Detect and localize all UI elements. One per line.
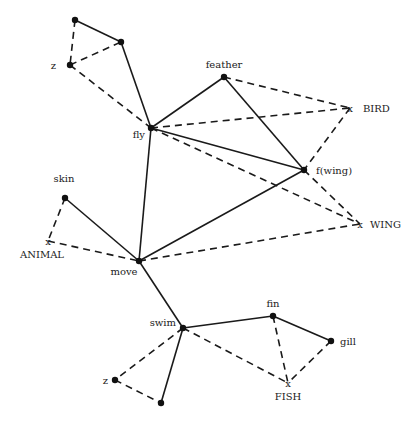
node-z_bottom: z (103, 375, 118, 386)
edge-gill-fish (288, 341, 331, 383)
node-dot-icon (67, 62, 73, 68)
edge-feather-bird (224, 77, 350, 108)
edge-fwing-wing (304, 170, 360, 224)
node-label: z (51, 60, 56, 71)
node-wing: xWING (357, 219, 401, 230)
edge-n_top-z_top (70, 20, 75, 65)
nodes-layer: zflyfeatherxBIRDf(wing)xWINGskinxANIMALm… (19, 17, 401, 406)
semantic-network-diagram: zflyfeatherxBIRDf(wing)xWINGskinxANIMALm… (0, 0, 414, 424)
edge-n_top-n_midtop (75, 20, 121, 42)
node-x-marker-icon: x (45, 236, 51, 247)
node-label: WING (370, 219, 401, 230)
node-label: gill (340, 336, 356, 347)
node-dot-icon (328, 338, 334, 344)
node-dot-icon (158, 400, 164, 406)
node-dot-icon (62, 195, 68, 201)
node-x-marker-icon: x (285, 378, 291, 389)
node-n_midtop (118, 39, 124, 45)
node-animal: xANIMAL (19, 236, 64, 260)
edge-swim-fin (183, 316, 273, 328)
edge-swim-z_bottom (115, 328, 183, 380)
node-label: fin (266, 298, 280, 309)
node-label: FISH (275, 391, 302, 402)
edge-skin-animal (48, 198, 65, 241)
node-n_top (72, 17, 78, 23)
edge-n_midtop-fly (121, 42, 151, 128)
node-label: BIRD (363, 103, 390, 114)
edge-feather-fwing (224, 77, 304, 170)
edge-z_top-n_midtop (70, 42, 121, 65)
node-dot-icon (148, 125, 154, 131)
node-bird: xBIRD (347, 103, 390, 114)
node-label: feather (206, 59, 243, 70)
node-dot-icon (301, 167, 307, 173)
edge-fly-feather (151, 77, 224, 128)
edge-skin-move (65, 198, 139, 261)
node-label: swim (150, 317, 177, 328)
node-dot-icon (112, 377, 118, 383)
edge-fly-move (139, 128, 151, 261)
node-dot-icon (136, 258, 142, 264)
edge-bird-fwing (304, 108, 350, 170)
edges-layer (48, 20, 360, 403)
node-label: skin (54, 173, 75, 184)
node-dot-icon (72, 17, 78, 23)
node-dot-icon (118, 39, 124, 45)
node-dot-icon (221, 74, 227, 80)
edge-move-fwing (139, 170, 304, 261)
node-label: f(wing) (316, 165, 352, 176)
node-fish: xFISH (275, 378, 302, 402)
node-label: ANIMAL (19, 249, 64, 260)
node-skin: skin (54, 173, 75, 201)
edge-z_top-fly (70, 65, 151, 128)
node-n_bottom (158, 400, 164, 406)
node-dot-icon (180, 325, 186, 331)
edge-fin-fish (273, 316, 288, 383)
node-feather: feather (206, 59, 243, 80)
edge-swim-fish (183, 328, 288, 383)
edge-swim-n_bottom (161, 328, 183, 403)
edge-fin-gill (273, 316, 331, 341)
node-x-marker-icon: x (357, 219, 363, 230)
node-label: move (110, 266, 137, 277)
edge-fly-bird (151, 108, 350, 128)
edge-z_bottom-n_bottom (115, 380, 161, 403)
node-dot-icon (270, 313, 276, 319)
node-label: z (103, 375, 108, 386)
node-gill: gill (328, 336, 356, 347)
edge-fly-wing (151, 128, 360, 224)
node-x-marker-icon: x (347, 103, 353, 114)
node-move: move (110, 258, 142, 277)
node-label: fly (133, 129, 146, 140)
